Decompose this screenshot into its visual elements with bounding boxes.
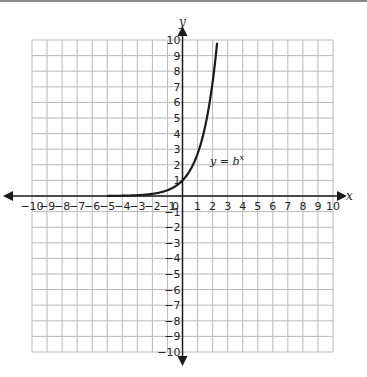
x-tick-label: −4 [114,200,130,213]
x-tick-label: −6 [84,200,100,213]
x-tick-label: −3 [129,200,145,213]
x-tick-label: 2 [209,200,216,213]
x-tick-label: −5 [99,200,115,213]
y-tick-label: −4 [164,252,180,265]
y-tick-label: 2 [174,159,181,172]
y-tick-label: −3 [164,237,180,250]
y-tick-label: −2 [164,221,180,234]
y-tick-label: −7 [164,299,180,312]
y-tick-label: 10 [167,34,181,47]
exponential-graph: −10−9−8−7−6−5−4−3−2−1012345678910−10−9−8… [0,0,367,377]
x-axis-left-arrow-icon [3,191,13,201]
x-tick-label: 9 [314,200,321,213]
y-tick-label: 9 [174,50,181,63]
curve-y-equals-b-to-x [107,43,217,196]
y-tick-label: 5 [174,112,181,125]
y-tick-label: 4 [174,128,181,141]
x-tick-label: 4 [239,200,246,213]
x-tick-label: −9 [39,200,55,213]
x-tick-label: 5 [254,200,261,213]
x-tick-label: 8 [299,200,306,213]
x-tick-label: 10 [326,200,340,213]
x-tick-label: 1 [194,200,201,213]
y-tick-label: −10 [157,346,180,359]
y-tick-label: −5 [164,268,180,281]
x-tick-label: 3 [224,200,231,213]
y-tick-label: −1 [164,206,180,219]
x-tick-label: −8 [54,200,70,213]
x-tick-label: 7 [284,200,291,213]
y-tick-label: 7 [174,81,181,94]
x-tick-label: −2 [144,200,160,213]
x-tick-label: 6 [269,200,276,213]
y-axis-label: y [178,15,186,29]
x-axis-label: x [346,189,353,203]
y-tick-label: −6 [164,284,180,297]
curve-label: y = bx [209,153,244,168]
y-tick-label: 8 [174,65,181,78]
x-tick-label: −7 [69,200,85,213]
y-tick-label: −8 [164,315,180,328]
y-tick-label: 3 [174,143,181,156]
y-tick-label: −9 [164,330,180,343]
y-tick-label: 6 [174,96,181,109]
